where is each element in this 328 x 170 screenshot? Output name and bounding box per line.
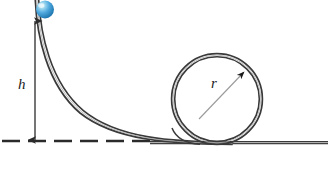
height-label: h	[18, 76, 26, 92]
radius-arrow	[199, 73, 244, 120]
curved-ramp-track	[35, 0, 232, 144]
physics-diagram-loop-the-loop: h r	[0, 0, 328, 170]
vertical-loop-track	[172, 54, 263, 145]
radius-label: r	[211, 75, 217, 91]
ball-specular-highlight	[38, 3, 44, 8]
ball	[36, 1, 54, 19]
diagram-canvas: h r	[0, 0, 328, 170]
